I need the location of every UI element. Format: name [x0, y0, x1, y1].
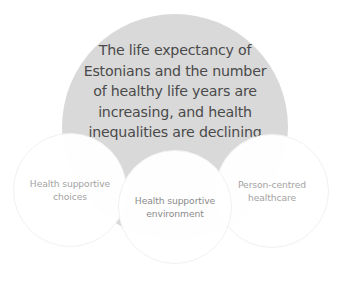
pillar-choices-label: Health supportive choices — [24, 177, 116, 203]
goal-line: increasing, and health — [70, 102, 280, 123]
pillar-line: healthcare — [238, 191, 306, 204]
pillar-choices-circle: Health supportive choices — [13, 133, 127, 247]
pillar-environment-label: Health supportive environment — [129, 194, 221, 220]
pillar-line: Person-centred — [238, 178, 306, 191]
goal-text: The life expectancy of Estonians and the… — [70, 40, 280, 143]
pillar-healthcare-label: Person-centred healthcare — [232, 178, 312, 204]
pillar-line: environment — [135, 207, 215, 220]
pillar-environment-circle: Health supportive environment — [118, 150, 232, 264]
pillar-healthcare-circle: Person-centred healthcare — [215, 134, 329, 248]
pillar-line: Health supportive — [30, 177, 110, 190]
pillar-line: Health supportive — [135, 194, 215, 207]
goal-line: Estonians and the number — [70, 61, 280, 82]
goal-line: of healthy life years are — [70, 81, 280, 102]
goal-line: The life expectancy of — [70, 40, 280, 61]
pillar-line: choices — [30, 190, 110, 203]
